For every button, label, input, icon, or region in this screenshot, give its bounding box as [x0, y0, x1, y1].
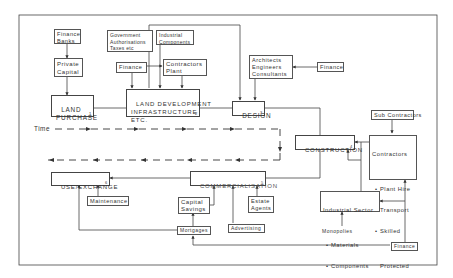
contractors-box: Contractors Plant Hire Transport Skilled…	[369, 135, 417, 180]
finance-banks-box: Finance Banks	[54, 29, 81, 44]
stage-commercialisation: COMMERCIALISATION 5	[190, 171, 266, 186]
stage-use-exchange: USE/EXCHANGE 6	[51, 172, 110, 186]
stage-number: 2	[195, 112, 198, 116]
finance-bottom-box: Finance	[391, 242, 418, 251]
contractors-item: Plant Hire	[380, 186, 414, 193]
industrial-components-box: Industrial Components	[156, 30, 194, 45]
stage-number: 3	[260, 111, 263, 115]
finance-design-box: Finance	[317, 62, 344, 72]
contractors-item: Protected	[372, 263, 414, 270]
industrial-sector-item: Materials	[331, 242, 377, 249]
contractors-item: Transport	[380, 207, 414, 214]
stage-number: 6	[105, 181, 108, 185]
capital-savings-box: Capital Savings	[178, 197, 210, 214]
contractors-plant-box: Contractors Plant	[163, 59, 207, 76]
government-box: Government Authorisations Taxes etc	[107, 30, 153, 52]
stage-label: DESIGN	[242, 112, 271, 119]
estate-agents-box: Estate Agents	[248, 196, 274, 213]
time-label: Time	[34, 125, 50, 132]
advertising-box: Advertising	[228, 224, 265, 233]
stage-label: USE/EXCHANGE	[61, 184, 118, 190]
private-capital-box: Private Capital	[54, 58, 83, 77]
stage-label: COMMERCIALISATION	[200, 183, 278, 189]
mortgages-box: Mortgages	[177, 226, 211, 235]
contractors-title: Contractors	[372, 151, 414, 158]
industrial-sector-title: Industrial Sector	[323, 207, 377, 214]
stage-number: 5	[261, 181, 264, 185]
contractors-item: Skilled	[380, 228, 414, 235]
stage-number: 1	[89, 112, 92, 116]
monopolies-label: Monopolies	[322, 228, 353, 234]
stage-land-development: LAND DEVELOPMENT INFRASTRUCTURE ETC. 2	[126, 89, 200, 117]
architects-box: Architects Engineers Consultants	[249, 55, 293, 79]
stage-land-purchase: LAND PURCHASE 1	[51, 95, 94, 117]
maintenance-box: Maintenance	[87, 196, 129, 206]
sub-contractors-box: Sub Contractors	[371, 110, 414, 120]
industrial-sector-box: Industrial Sector Materials Components	[320, 191, 380, 212]
finance-dev-box: Finance	[116, 62, 147, 73]
stage-label: CONSTRUCTION	[305, 147, 363, 153]
development-process-diagram: Time Finance Banks Private Capital LAND …	[0, 0, 453, 278]
stage-number: 4	[350, 145, 353, 149]
stage-design: DESIGN 3	[232, 101, 265, 116]
industrial-sector-item: Components	[331, 263, 377, 270]
stage-construction: CONSTRUCTION 4	[295, 135, 355, 150]
